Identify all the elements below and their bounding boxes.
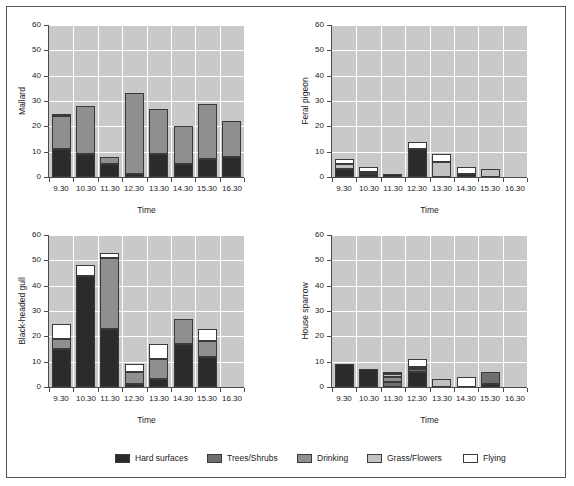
gridline-x-5 xyxy=(454,235,455,387)
bar-segment-drinking xyxy=(408,367,427,370)
y-tick-30 xyxy=(327,311,331,312)
y-tick-label: 20 xyxy=(308,332,324,340)
chart-panel-house-sparrow: 01020304050609.3010.3011.3012.3013.3014.… xyxy=(7,7,567,479)
legend-swatch-icon xyxy=(115,454,130,463)
y-tick-20 xyxy=(327,336,331,337)
x-tick-0 xyxy=(332,388,333,392)
bar-15-30 xyxy=(481,372,500,387)
y-tick-10 xyxy=(327,362,331,363)
y-tick-label: 60 xyxy=(308,231,324,239)
gridline-x-4 xyxy=(430,235,431,387)
x-tick-label: 16.30 xyxy=(500,395,530,403)
legend-item-trees-shrubs[interactable]: Trees/Shrubs xyxy=(207,452,278,465)
legend-item-grass-flowers[interactable]: Grass/Flowers xyxy=(367,452,442,465)
y-tick-label: 0 xyxy=(308,383,324,391)
legend-swatch-icon xyxy=(463,454,478,463)
legend-label: Grass/Flowers xyxy=(387,454,442,463)
chart-legend: Hard surfacesTrees/ShrubsDrinkingGrass/F… xyxy=(115,452,515,466)
bar-segment-hard-surfaces xyxy=(359,369,378,387)
bar-segment-hard-surfaces xyxy=(335,364,354,387)
bar-segment-hard-surfaces xyxy=(408,372,427,387)
gridline-x-7 xyxy=(503,235,504,387)
y-tick-label: 10 xyxy=(308,358,324,366)
bar-10-30 xyxy=(359,369,378,387)
x-axis-line xyxy=(331,387,527,388)
bar-segment-trees-shrubs xyxy=(408,369,427,372)
legend-label: Drinking xyxy=(317,454,348,463)
x-tick-1 xyxy=(356,388,357,392)
x-axis-title: Time xyxy=(332,415,527,425)
y-tick-label: 50 xyxy=(308,256,324,264)
legend-label: Flying xyxy=(483,454,506,463)
bar-13-30 xyxy=(432,379,451,387)
y-axis-title: House sparrow xyxy=(300,235,310,387)
x-tick-3 xyxy=(405,388,406,392)
legend-swatch-icon xyxy=(367,454,382,463)
y-axis-line xyxy=(331,235,332,388)
y-tick-40 xyxy=(327,286,331,287)
legend-label: Hard surfaces xyxy=(135,454,188,463)
y-tick-label: 30 xyxy=(308,307,324,315)
x-tick-5 xyxy=(454,388,455,392)
legend-item-hard-surfaces[interactable]: Hard surfaces xyxy=(115,452,188,465)
bar-segment-flying xyxy=(383,372,402,375)
bar-11-30 xyxy=(383,372,402,387)
bar-segment-drinking xyxy=(383,377,402,382)
bar-14-30 xyxy=(457,377,476,387)
bar-segment-trees-shrubs xyxy=(481,372,500,385)
bar-segment-flying xyxy=(457,377,476,387)
legend-item-drinking[interactable]: Drinking xyxy=(297,452,348,465)
gridline-x-2 xyxy=(381,235,382,387)
bar-segment-grass-flowers xyxy=(432,379,451,387)
gridline-x-1 xyxy=(356,235,357,387)
bar-segment-grass-flowers xyxy=(383,374,402,377)
figure-frame: 01020304050609.3010.3011.3012.3013.3014.… xyxy=(6,6,566,478)
gridline-x-3 xyxy=(405,235,406,387)
y-tick-60 xyxy=(327,235,331,236)
x-tick-2 xyxy=(381,388,382,392)
x-tick-8 xyxy=(527,388,528,392)
y-tick-50 xyxy=(327,260,331,261)
bar-9-30 xyxy=(335,364,354,387)
y-tick-label: 40 xyxy=(308,282,324,290)
x-tick-4 xyxy=(430,388,431,392)
chart-page: 01020304050609.3010.3011.3012.3013.3014.… xyxy=(0,0,574,486)
legend-label: Trees/Shrubs xyxy=(227,454,278,463)
bar-segment-flying xyxy=(408,359,427,367)
x-tick-6 xyxy=(478,388,479,392)
x-tick-7 xyxy=(503,388,504,392)
legend-swatch-icon xyxy=(207,454,222,463)
gridline-x-6 xyxy=(478,235,479,387)
y-tick-0 xyxy=(327,387,331,388)
legend-swatch-icon xyxy=(297,454,312,463)
legend-item-flying[interactable]: Flying xyxy=(463,452,506,465)
bar-12-30 xyxy=(408,359,427,387)
plot-area xyxy=(332,235,527,387)
